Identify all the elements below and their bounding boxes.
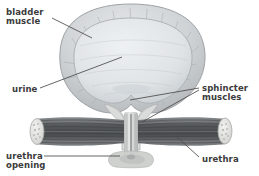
label-urethra: urethra — [202, 155, 239, 164]
urethra-opening-shape — [109, 151, 154, 168]
bladder-anatomy-figure: bladder muscle urine urethra opening sph… — [0, 0, 259, 176]
sphincter-muscle-right — [138, 117, 232, 146]
label-bladder-muscle: bladder muscle — [6, 8, 44, 26]
sphincter-muscle-left — [30, 117, 124, 146]
label-urethra-opening: urethra opening — [6, 152, 46, 170]
label-sphincter-muscles: sphincter muscles — [202, 84, 248, 102]
bladder-cavity-urine — [74, 18, 192, 103]
label-urine: urine — [12, 85, 37, 94]
